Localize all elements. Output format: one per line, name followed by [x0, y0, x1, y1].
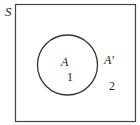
region-1-label: 1	[67, 70, 73, 84]
set-a-label: A	[60, 55, 69, 69]
region-2-label: 2	[109, 79, 115, 93]
universe-label: S	[5, 4, 12, 19]
complement-label: A′	[103, 53, 114, 67]
universe-rectangle	[16, 5, 136, 122]
venn-diagram: S A 1 A′ 2	[0, 0, 140, 125]
